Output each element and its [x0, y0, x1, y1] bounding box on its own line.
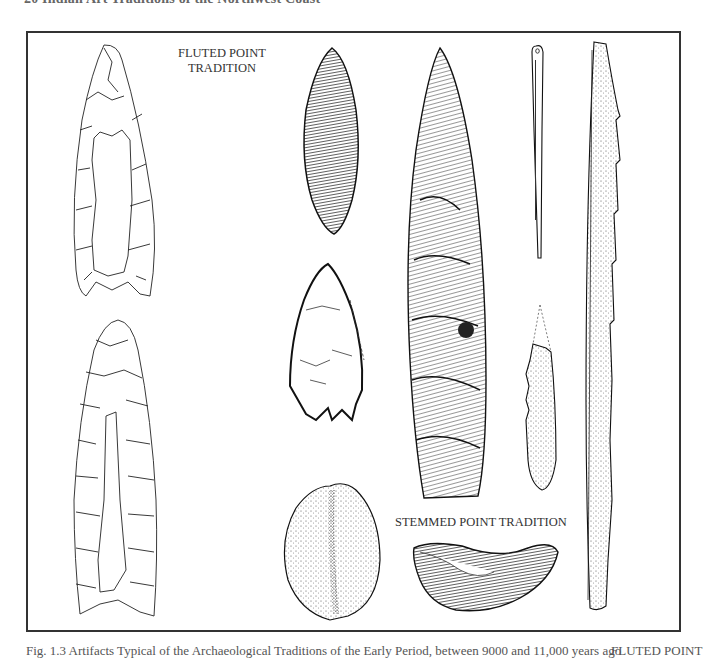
figure-caption: Fig. 1.3 Artifacts Typical of the Archae… — [26, 643, 706, 659]
caption-text: Fig. 1.3 Artifacts Typical of the Archae… — [26, 643, 621, 658]
caption-tag: FLUTED POINT — [611, 643, 702, 659]
